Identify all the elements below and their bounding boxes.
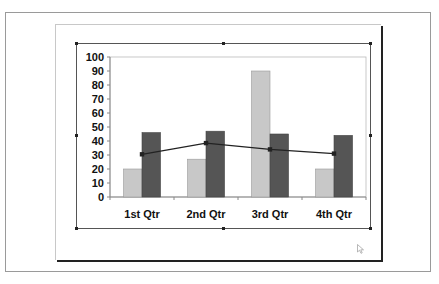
- bar-2-1[interactable]: [142, 133, 161, 197]
- x-tick-label: 4th Qtr: [316, 208, 353, 220]
- bar-2-2[interactable]: [206, 131, 225, 197]
- bar-2-4[interactable]: [334, 135, 353, 197]
- bar-1-3[interactable]: [252, 71, 271, 197]
- line-point-3[interactable]: [268, 147, 272, 151]
- x-tick-label: 3rd Qtr: [252, 208, 289, 220]
- x-tick-label: 2nd Qtr: [186, 208, 226, 220]
- line-point-4[interactable]: [332, 151, 336, 155]
- y-tick-label: 40: [92, 135, 104, 147]
- line-point-2[interactable]: [204, 141, 208, 145]
- y-tick-label: 10: [92, 177, 104, 189]
- y-tick-label: 70: [92, 93, 104, 105]
- bar-2-3[interactable]: [270, 134, 289, 197]
- y-tick-label: 100: [86, 51, 104, 63]
- y-tick-label: 50: [92, 121, 104, 133]
- bar-1-1[interactable]: [124, 169, 143, 197]
- y-tick-label: 60: [92, 107, 104, 119]
- bar-1-4[interactable]: [316, 169, 335, 197]
- chart-svg: 0102030405060708090100 1st Qtr2nd Qtr3rd…: [0, 0, 439, 284]
- line-point-1[interactable]: [140, 152, 144, 156]
- y-tick-label: 0: [98, 191, 104, 203]
- x-tick-label: 1st Qtr: [124, 208, 160, 220]
- y-tick-label: 90: [92, 65, 104, 77]
- y-tick-label: 20: [92, 163, 104, 175]
- bar-1-2[interactable]: [188, 159, 207, 197]
- y-tick-label: 30: [92, 149, 104, 161]
- y-axis: 0102030405060708090100: [86, 51, 110, 203]
- y-tick-label: 80: [92, 79, 104, 91]
- mouse-pointer-icon: [357, 244, 365, 254]
- x-axis: 1st Qtr2nd Qtr3rd Qtr4th Qtr: [110, 197, 366, 220]
